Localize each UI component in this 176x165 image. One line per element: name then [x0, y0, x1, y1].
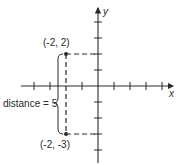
- point-lower: [64, 132, 68, 136]
- y-axis: y: [94, 6, 109, 163]
- x-axis-label: x: [168, 88, 175, 99]
- point-upper: [64, 52, 68, 56]
- point-lower-label: (-2, -3): [40, 139, 70, 150]
- y-axis-label: y: [102, 6, 109, 17]
- point-upper-label: (-2, 2): [43, 37, 70, 48]
- distance-annotation: distance = 5: [3, 98, 58, 109]
- curly-brace: [54, 54, 63, 134]
- coordinate-plane: x y (-2, 2) (-2, -3) distance = 5: [0, 0, 176, 165]
- dashed-guides: [66, 54, 98, 134]
